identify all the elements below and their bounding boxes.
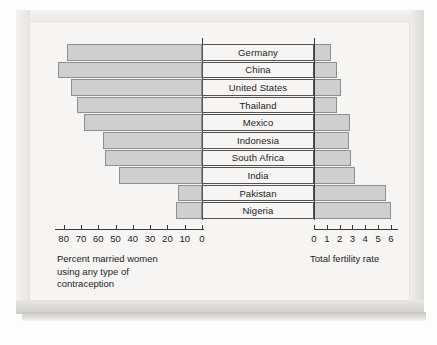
left-axis-caption-line: using any type of	[57, 266, 207, 279]
category-label-south-africa: South Africa	[202, 150, 314, 167]
bar-right-india	[314, 167, 355, 184]
left-axis-tick-60	[98, 225, 99, 229]
figure-frame: GermanyChinaUnited StatesThailandMexicoI…	[0, 0, 437, 345]
category-label-mexico: Mexico	[202, 114, 314, 131]
bidirectional-bar-chart: GermanyChinaUnited StatesThailandMexicoI…	[30, 22, 411, 302]
bar-left-germany	[67, 44, 202, 61]
bar-right-south-africa	[314, 150, 351, 167]
bar-right-mexico	[314, 114, 350, 131]
bar-left-indonesia	[103, 132, 202, 149]
right-axis-tick-5	[378, 225, 379, 229]
chart-plate: GermanyChinaUnited StatesThailandMexicoI…	[29, 21, 410, 301]
left-axis-tick-label-0: 0	[192, 233, 212, 244]
left-axis-caption-line: Percent married women	[57, 253, 207, 266]
bar-left-china	[58, 62, 202, 79]
bar-right-indonesia	[314, 132, 349, 149]
left-axis-tick-20	[167, 225, 168, 229]
right-axis-tick-label-6: 6	[381, 233, 401, 244]
left-axis-caption: Percent married womenusing any type ofco…	[57, 253, 207, 291]
bar-left-pakistan	[178, 185, 202, 202]
bar-left-india	[119, 167, 202, 184]
right-axis-tick-1	[327, 225, 328, 229]
bar-left-united-states	[71, 79, 202, 96]
right-axis-tick-4	[365, 225, 366, 229]
frame-drop-shadow	[22, 312, 426, 321]
left-axis-tick-40	[133, 225, 134, 229]
right-axis-line	[314, 229, 398, 230]
frame-bevel-left	[16, 10, 30, 312]
bar-left-south-africa	[105, 150, 202, 167]
bar-right-united-states	[314, 79, 341, 96]
category-label-thailand: Thailand	[202, 97, 314, 114]
right-axis-tick-2	[340, 225, 341, 229]
left-axis-caption-line: contraception	[57, 278, 207, 291]
category-label-india: India	[202, 167, 314, 184]
category-label-nigeria: Nigeria	[202, 202, 314, 219]
left-axis-tick-30	[150, 225, 151, 229]
category-label-germany: Germany	[202, 44, 314, 61]
right-axis-zero-line	[314, 38, 315, 220]
bar-right-nigeria	[314, 202, 391, 219]
frame-bevel-right	[410, 10, 424, 314]
category-label-indonesia: Indonesia	[202, 132, 314, 149]
bar-right-thailand	[314, 97, 337, 114]
left-axis-tick-70	[81, 225, 82, 229]
left-axis-tick-0	[202, 225, 203, 229]
right-axis-tick-0	[314, 225, 315, 229]
left-axis-tick-80	[64, 225, 65, 229]
left-axis-line	[55, 229, 204, 230]
left-axis-tick-10	[185, 225, 186, 229]
category-label-china: China	[202, 62, 314, 79]
bar-right-pakistan	[314, 185, 386, 202]
right-axis-tick-6	[391, 225, 392, 229]
bar-right-germany	[314, 44, 331, 61]
category-label-united-states: United States	[202, 79, 314, 96]
bar-left-mexico	[84, 114, 202, 131]
left-axis-tick-50	[116, 225, 117, 229]
bar-left-nigeria	[176, 202, 202, 219]
bar-right-china	[314, 62, 337, 79]
bar-left-thailand	[77, 97, 202, 114]
right-axis-caption: Total fertility rate	[310, 253, 437, 266]
right-axis-tick-3	[352, 225, 353, 229]
category-label-pakistan: Pakistan	[202, 185, 314, 202]
